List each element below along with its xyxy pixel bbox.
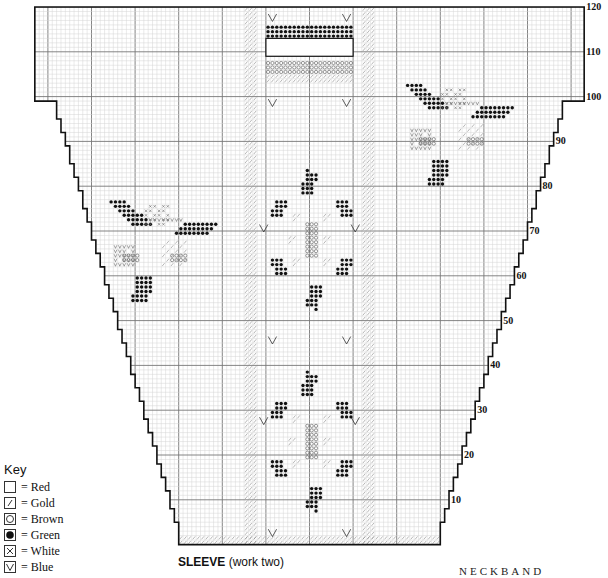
caption-title: SLEEVE <box>178 555 225 569</box>
row-label-10: 10 <box>451 495 461 505</box>
key-item-blue: = Blue <box>4 559 124 575</box>
row-label-60: 60 <box>516 271 526 281</box>
row-label-110: 110 <box>586 47 600 57</box>
filled-dot-icon <box>4 529 16 541</box>
row-label-90: 90 <box>556 136 566 146</box>
key-item-green: = Green <box>4 527 124 543</box>
caption-note: (work two) <box>225 555 284 569</box>
chart-caption: SLEEVE (work two) <box>178 555 284 569</box>
row-label-70: 70 <box>530 226 540 236</box>
slash-icon <box>4 497 16 509</box>
key-item-red: = Red <box>4 479 124 495</box>
cross-icon <box>4 545 16 557</box>
blank-square-icon <box>4 481 16 493</box>
key-item-brown: = Brown <box>4 511 124 527</box>
row-label-40: 40 <box>490 360 500 370</box>
v-icon <box>4 561 16 573</box>
key-item-gold: = Gold <box>4 495 124 511</box>
neckband-label: NECKBAND <box>459 565 544 577</box>
row-label-50: 50 <box>503 316 513 326</box>
row-label-120: 120 <box>586 2 601 12</box>
row-label-30: 30 <box>477 405 487 415</box>
key-item-white: = White <box>4 543 124 559</box>
row-label-20: 20 <box>464 450 474 460</box>
circle-icon <box>4 513 16 525</box>
key-title: Key <box>4 462 124 477</box>
color-key: Key = Red = Gold = Brown = Green = White… <box>4 462 124 575</box>
row-label-80: 80 <box>543 181 553 191</box>
row-label-100: 100 <box>586 92 601 102</box>
